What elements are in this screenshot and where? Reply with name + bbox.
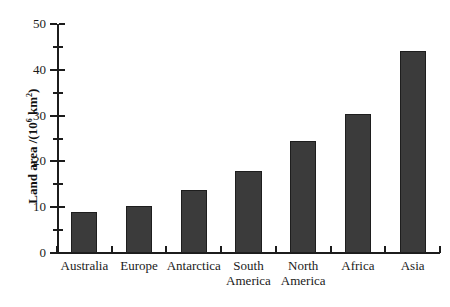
y-tick-label: 50 [0,17,46,30]
bar [290,141,316,253]
bar [181,190,207,253]
plot-area: Land area /(106 km2) 01020304050Australi… [0,0,450,307]
y-tick-major [50,206,57,208]
x-axis-category-label: Asia [385,258,440,273]
y-tick-major-inner [59,23,65,25]
x-tick [275,246,277,253]
x-axis-category-label: Europe [112,258,167,273]
y-tick-major-inner [59,160,65,162]
y-tick-major [50,115,57,117]
y-tick-label: 20 [0,154,46,167]
y-tick-minor-inner [59,46,63,48]
y-tick-major-inner [59,115,65,117]
x-tick [439,246,441,253]
y-tick-minor [53,229,57,231]
bar-chart: · · · · · · · · Land area /(106 km2) 010… [0,0,450,307]
y-axis-title-suffix: ) [25,89,40,93]
bar [235,171,261,253]
y-tick-label: 30 [0,109,46,122]
y-tick-minor [53,92,57,94]
x-axis-category-label: Antarctica [166,258,221,273]
x-tick [330,246,332,253]
y-tick-minor-inner [59,229,63,231]
y-tick-major-inner [59,252,65,254]
x-tick [56,246,58,253]
y-tick-major-inner [59,69,65,71]
y-tick-minor [53,46,57,48]
x-axis-category-label: Africa [331,258,386,273]
x-tick [111,246,113,253]
bar [126,206,152,253]
y-tick-major [50,160,57,162]
y-tick-minor-inner [59,92,63,94]
y-tick-major-inner [59,206,65,208]
y-axis-title-exponent-2: 2 [25,93,34,97]
y-tick-major [50,23,57,25]
y-tick-minor-inner [59,138,63,140]
y-tick-major [50,69,57,71]
y-tick-label: 0 [0,246,46,259]
x-tick [220,246,222,253]
y-tick-minor [53,138,57,140]
bar [400,51,426,253]
bar [345,114,371,253]
y-tick-minor-inner [59,183,63,185]
x-axis-category-label: South America [221,258,276,288]
x-axis-category-label: Australia [57,258,112,273]
y-tick-minor [53,183,57,185]
x-axis-category-label: North America [276,258,331,288]
y-tick-label: 40 [0,63,46,76]
bar [71,212,97,253]
y-tick-label: 10 [0,200,46,213]
x-tick [165,246,167,253]
x-tick [384,246,386,253]
